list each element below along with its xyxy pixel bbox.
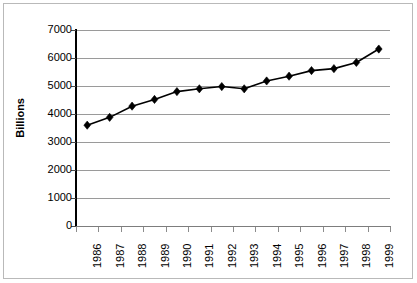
x-axis-tick-labels: 1986198719881989199019911992199319941995… bbox=[0, 0, 417, 283]
x-tick-label-1996: 1996 bbox=[317, 234, 328, 268]
x-tick-label-1986: 1986 bbox=[92, 234, 103, 268]
x-tick-label-1992: 1992 bbox=[227, 234, 238, 268]
x-tick-label-1988: 1988 bbox=[137, 234, 148, 268]
x-tick-label-1989: 1989 bbox=[160, 234, 171, 268]
x-tick-label-1995: 1995 bbox=[294, 234, 305, 268]
x-tick-label-1998: 1998 bbox=[361, 234, 372, 268]
x-tick-label-1997: 1997 bbox=[339, 234, 350, 268]
x-tick-label-1999: 1999 bbox=[384, 234, 395, 268]
x-tick-label-1991: 1991 bbox=[204, 234, 215, 268]
x-tick-label-1993: 1993 bbox=[249, 234, 260, 268]
x-tick-label-1987: 1987 bbox=[115, 234, 126, 268]
chart-figure: 01000200030004000500060007000 1986198719… bbox=[0, 0, 417, 283]
x-tick-label-1990: 1990 bbox=[182, 234, 193, 268]
x-tick-label-1994: 1994 bbox=[272, 234, 283, 268]
y-axis-title: Billions bbox=[14, 98, 26, 138]
